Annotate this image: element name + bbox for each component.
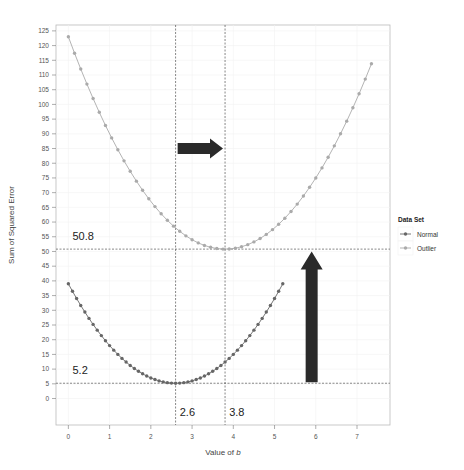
data-point: [79, 67, 82, 70]
y-tick-label: 55: [42, 233, 50, 240]
data-point: [207, 372, 210, 375]
data-point: [199, 376, 202, 379]
y-tick-label: 40: [42, 277, 50, 284]
data-point: [67, 35, 70, 38]
data-point: [67, 282, 70, 285]
data-point: [357, 92, 360, 95]
y-axis-title: Sum of Squared Error: [7, 186, 16, 264]
data-point: [283, 216, 286, 219]
data-point: [170, 381, 173, 384]
data-point: [178, 381, 181, 384]
x-tick-label: 5: [273, 433, 277, 440]
data-point: [75, 297, 78, 300]
data-point: [129, 170, 132, 173]
legend-label-normal: Normal: [417, 231, 439, 238]
data-point: [178, 230, 181, 233]
y-tick-label: 65: [42, 204, 50, 211]
y-tick-label: 35: [42, 292, 50, 299]
data-point: [232, 353, 235, 356]
data-point: [277, 223, 280, 226]
legend-title: Data Set: [398, 216, 425, 223]
legend-key-point: [404, 246, 407, 249]
y-tick-label: 80: [42, 160, 50, 167]
data-point: [137, 370, 140, 373]
x-axis: 01234567: [67, 425, 360, 440]
y-tick-label: 110: [39, 71, 50, 78]
legend-label-outlier: Outlier: [417, 245, 437, 252]
data-point: [85, 82, 88, 85]
chart: 0510152025303540455055606570758085909510…: [0, 0, 464, 470]
data-point: [116, 148, 119, 151]
x-axis-title: Value of b: [205, 448, 241, 457]
data-point: [162, 380, 165, 383]
data-point: [104, 339, 107, 342]
data-point: [110, 136, 113, 139]
y-tick-label: 15: [42, 351, 50, 358]
data-point: [190, 379, 193, 382]
y-tick-label: 75: [42, 174, 50, 181]
annotation-2.6: 2.6: [180, 406, 195, 418]
data-point: [223, 360, 226, 363]
x-tick-label: 2: [149, 433, 153, 440]
data-point: [184, 234, 187, 237]
data-point: [141, 189, 144, 192]
data-point: [145, 374, 148, 377]
x-tick-label: 3: [190, 433, 194, 440]
data-point: [96, 328, 99, 331]
data-point: [87, 317, 90, 320]
data-point: [351, 106, 354, 109]
y-tick-label: 0: [45, 395, 49, 402]
data-point: [345, 119, 348, 122]
data-point: [159, 212, 162, 215]
data-point: [234, 246, 237, 249]
y-tick-label: 115: [39, 57, 50, 64]
data-point: [147, 197, 150, 200]
y-tick-label: 125: [38, 27, 49, 34]
data-point: [104, 124, 107, 127]
y-tick-label: 60: [42, 218, 50, 225]
data-point: [153, 378, 156, 381]
legend: Data SetNormalOutlier: [398, 216, 439, 255]
data-point: [296, 202, 299, 205]
legend-key-point: [404, 232, 407, 235]
data-point: [244, 339, 247, 342]
y-tick-label: 45: [42, 262, 50, 269]
data-point: [246, 243, 249, 246]
data-point: [248, 334, 251, 337]
annotation-50.8: 50.8: [72, 230, 93, 242]
x-tick-label: 6: [314, 433, 318, 440]
data-point: [320, 166, 323, 169]
data-point: [182, 381, 185, 384]
data-point: [326, 156, 329, 159]
data-point: [240, 245, 243, 248]
data-point: [252, 328, 255, 331]
data-point: [281, 282, 284, 285]
data-point: [203, 244, 206, 247]
data-point: [166, 381, 169, 384]
y-tick-label: 100: [38, 101, 49, 108]
data-point: [333, 144, 336, 147]
data-point: [260, 317, 263, 320]
data-point: [209, 246, 212, 249]
y-axis: 0510152025303540455055606570758085909510…: [38, 27, 56, 402]
data-point: [221, 247, 224, 250]
data-point: [133, 367, 136, 370]
data-point: [197, 241, 200, 244]
data-point: [289, 210, 292, 213]
x-tick-label: 7: [355, 433, 359, 440]
data-point: [265, 233, 268, 236]
data-point: [265, 310, 268, 313]
data-point: [157, 379, 160, 382]
plot-panel: [56, 25, 390, 425]
data-point: [227, 247, 230, 250]
y-tick-label: 95: [42, 115, 50, 122]
data-point: [124, 360, 127, 363]
data-point: [129, 364, 132, 367]
data-point: [190, 238, 193, 241]
data-point: [73, 51, 76, 54]
x-tick-label: 4: [231, 433, 235, 440]
y-tick-label: 10: [42, 365, 50, 372]
data-point: [273, 297, 276, 300]
data-point: [256, 323, 259, 326]
x-tick-label: 0: [67, 433, 71, 440]
